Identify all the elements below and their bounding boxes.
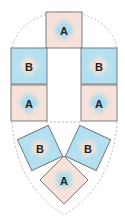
tile-label: A [60,175,68,187]
tile-label: A [25,98,33,110]
tile-top: A [46,12,82,48]
tile-right-lower: A [81,85,117,121]
tile-diagram: ABBAABBA [0,0,125,219]
tile-label: B [84,143,92,155]
tile-left-upper: B [11,48,47,84]
tile-right-upper: B [81,48,117,84]
tile-label: B [25,61,33,73]
tile-label: A [60,25,68,37]
tile-label: A [95,98,103,110]
tile-label: B [95,61,103,73]
tile-label: B [36,143,44,155]
tile-left-lower: A [11,85,47,121]
